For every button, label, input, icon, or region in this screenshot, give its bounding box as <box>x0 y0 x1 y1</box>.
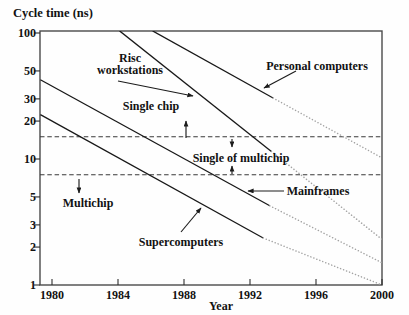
chart-canvas: Cycle time (ns) 100503020105321 19801984… <box>0 0 409 315</box>
cycle-time-trends-figure: Cycle time (ns) 100503020105321 19801984… <box>0 0 409 315</box>
x-axis-label: Year <box>209 299 234 313</box>
annotations: Risc workstations Personal computers Sin… <box>63 51 368 249</box>
multichip-label: Multichip <box>63 196 114 210</box>
y-tick-label-100: 100 <box>18 26 36 40</box>
x-tick-label-1996: 1996 <box>304 288 328 302</box>
y-tick-label-2: 2 <box>30 240 36 254</box>
series-supercomputers <box>40 115 263 238</box>
y-axis-ticks: 100503020105321 <box>18 26 40 292</box>
y-tick-label-5: 5 <box>30 190 36 204</box>
y-tick-label-3: 3 <box>30 218 36 232</box>
y-tick-label-10: 10 <box>24 152 36 166</box>
series-risc-workstations <box>120 31 272 151</box>
mainframes-label: Mainframes <box>287 184 350 198</box>
risc-workstations-arrow <box>118 81 193 96</box>
y-tick-label-30: 30 <box>24 92 36 106</box>
risc-workstations-label-line2: workstations <box>97 63 163 77</box>
single-chip-label: Single chip <box>123 99 180 113</box>
y-tick-label-1: 1 <box>30 278 36 292</box>
x-tick-label-1980: 1980 <box>40 288 64 302</box>
series-supercomputers-projection <box>263 238 382 285</box>
x-tick-label-1992: 1992 <box>238 288 262 302</box>
series-mainframes-projection <box>270 206 382 263</box>
x-tick-label-2000: 2000 <box>370 288 394 302</box>
y-tick-label-20: 20 <box>24 114 36 128</box>
x-tick-label-1988: 1988 <box>172 288 196 302</box>
personal-computers-label: Personal computers <box>266 59 368 73</box>
series-personal-computers <box>153 31 274 98</box>
series-personal-computers-projection <box>273 98 382 158</box>
x-tick-label-1984: 1984 <box>106 288 130 302</box>
supercomputers-label: Supercomputers <box>139 235 224 249</box>
single-of-multichip-label: Single of multichip <box>193 151 290 165</box>
chart-title: Cycle time (ns) <box>13 6 93 20</box>
supercomputers-arrow <box>181 208 201 232</box>
y-tick-label-50: 50 <box>24 64 36 78</box>
personal-computers-arrow <box>264 71 296 88</box>
